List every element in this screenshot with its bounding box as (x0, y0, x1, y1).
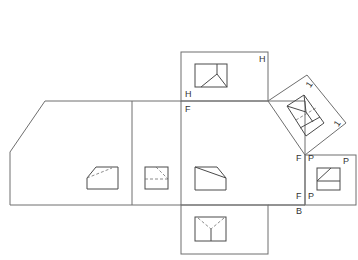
left-view-shape (87, 167, 118, 189)
rear-view-shape (145, 167, 168, 189)
label-h-bottom-left: H (185, 89, 192, 99)
profile-view-shape (317, 168, 340, 190)
label-p-bottom-left: P (308, 191, 314, 201)
label-h-top-right: H (259, 54, 266, 64)
projection-diagram: H H F F P P F P B 1 1 (0, 0, 358, 260)
label-aux-1-top: 1 (304, 80, 315, 90)
label-p-top-right: P (343, 156, 349, 166)
top-box (181, 52, 268, 101)
label-f-right-bottom: F (296, 191, 302, 201)
label-f-right-top: F (296, 153, 302, 163)
top-view-shape (195, 64, 227, 87)
bottom-box (181, 205, 268, 254)
label-b: B (296, 206, 302, 216)
bottom-view-shape (195, 217, 226, 241)
label-f-top: F (185, 104, 191, 114)
front-view-shape (195, 167, 226, 190)
label-p-top-left: P (308, 153, 314, 163)
